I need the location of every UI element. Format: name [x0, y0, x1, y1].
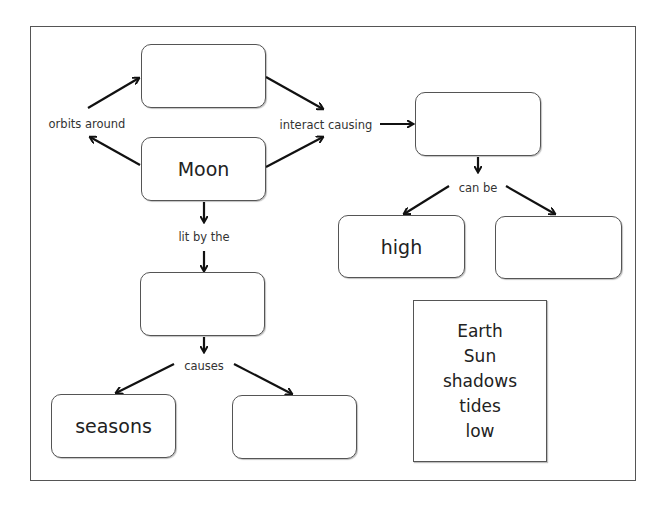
node-tide-right-blank[interactable]: [495, 216, 622, 279]
word-bank-item[interactable]: Earth: [457, 319, 503, 344]
node-tides-blank[interactable]: [415, 92, 541, 156]
node-high-text: high: [381, 236, 422, 258]
word-bank: Earth Sun shadows tides low: [413, 300, 547, 462]
link-label-can-be: can be: [459, 181, 498, 195]
node-moon[interactable]: Moon: [141, 137, 266, 201]
word-bank-item[interactable]: Sun: [464, 344, 496, 369]
link-label-lit-by-the: lit by the: [178, 230, 229, 244]
node-light-blank[interactable]: [140, 272, 265, 336]
node-high[interactable]: high: [338, 215, 465, 278]
node-top-blank[interactable]: [141, 44, 266, 108]
link-label-interact-causing: interact causing: [280, 118, 373, 132]
link-label-causes: causes: [184, 359, 224, 373]
node-bottom-right-blank[interactable]: [232, 395, 357, 459]
node-moon-text: Moon: [178, 158, 230, 180]
word-bank-item[interactable]: low: [465, 419, 494, 444]
node-seasons[interactable]: seasons: [51, 394, 176, 458]
word-bank-item[interactable]: tides: [459, 394, 501, 419]
word-bank-item[interactable]: shadows: [443, 369, 517, 394]
node-seasons-text: seasons: [75, 415, 152, 437]
link-label-orbits-around: orbits around: [49, 117, 126, 131]
